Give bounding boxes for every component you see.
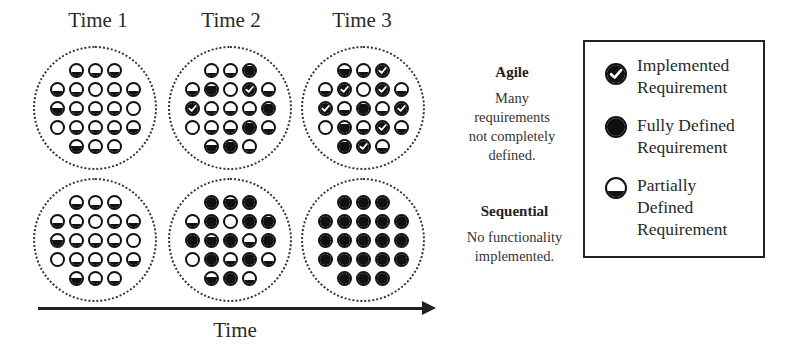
- partially-defined-requirement-icon: [204, 120, 219, 135]
- undefined-requirement-icon: [223, 214, 238, 229]
- sequential-label: Sequential No functionality implemented.: [452, 203, 577, 266]
- partially-defined-requirement-icon: [261, 82, 276, 97]
- fully-defined-requirement-icon: [223, 271, 238, 286]
- partially-defined-requirement-icon: [242, 271, 257, 286]
- partially-defined-requirement-icon: [261, 101, 276, 116]
- fully-defined-requirement-icon: [318, 233, 333, 248]
- undefined-requirement-icon: [88, 82, 103, 97]
- fully-defined-requirement-icon: [318, 252, 333, 267]
- fully-defined-requirement-icon: [242, 252, 257, 267]
- fully-defined-requirement-icon: [356, 252, 371, 267]
- partially-defined-requirement-icon: [69, 233, 84, 248]
- partially-defined-requirement-icon: [356, 101, 371, 116]
- fully-defined-requirement-icon: [337, 271, 352, 286]
- time-arrow-line: [38, 307, 424, 310]
- fully-defined-requirement-icon: [204, 252, 219, 267]
- fully-defined-requirement-icon: [375, 252, 390, 267]
- partially-defined-requirement-icon: [204, 139, 219, 154]
- legend-line: Requirement: [637, 218, 767, 240]
- partially-defined-requirement-icon: [242, 120, 257, 135]
- partially-defined-requirement-icon: [107, 101, 122, 116]
- partially-defined-requirement-icon: [107, 233, 122, 248]
- legend-line: Defined: [637, 196, 767, 218]
- agile-desc-line: not completely: [452, 127, 572, 146]
- implemented-requirement-icon: [356, 139, 371, 154]
- partially-defined-requirement-icon: [223, 252, 238, 267]
- partially-defined-requirement-icon: [223, 101, 238, 116]
- legend-text-partially-defined: Partially Defined Requirement: [637, 174, 767, 240]
- partially-defined-requirement-icon: [375, 101, 390, 116]
- partially-defined-requirement-icon: [50, 101, 65, 116]
- partially-defined-requirement-icon: [69, 82, 84, 97]
- fully-defined-requirement-icon: [185, 233, 200, 248]
- undefined-requirement-icon: [88, 214, 103, 229]
- partially-defined-requirement-icon: [107, 139, 122, 154]
- partially-defined-requirement-icon: [223, 120, 238, 135]
- partially-defined-requirement-icon: [126, 252, 141, 267]
- partially-defined-requirement-icon: [50, 233, 65, 248]
- agile-heading: Agile: [452, 64, 572, 81]
- partially-defined-requirement-icon: [107, 82, 122, 97]
- undefined-requirement-icon: [185, 120, 200, 135]
- partially-defined-requirement-icon: [107, 120, 122, 135]
- partially-defined-requirement-icon: [50, 214, 65, 229]
- partially-defined-requirement-icon: [69, 120, 84, 135]
- partially-defined-requirement-icon: [204, 82, 219, 97]
- fully-defined-requirement-icon: [223, 233, 238, 248]
- undefined-requirement-icon: [318, 120, 333, 135]
- implemented-requirement-icon: [375, 82, 390, 97]
- implemented-requirement-icon: [318, 101, 333, 116]
- partially-defined-requirement-icon: [185, 82, 200, 97]
- partially-defined-requirement-icon: [126, 82, 141, 97]
- column-title-time-1: Time 1: [33, 8, 163, 33]
- partially-defined-requirement-icon: [318, 82, 333, 97]
- partially-defined-requirement-icon: [223, 195, 238, 210]
- column-title-time-2: Time 2: [166, 8, 296, 33]
- partially-defined-requirement-icon: [107, 252, 122, 267]
- partially-defined-requirement-icon: [69, 195, 84, 210]
- partially-defined-requirement-icon: [204, 101, 219, 116]
- partially-defined-requirement-icon: [204, 233, 219, 248]
- partially-defined-requirement-icon: [88, 120, 103, 135]
- fully-defined-requirement-icon: [337, 233, 352, 248]
- fully-defined-requirement-icon: [375, 271, 390, 286]
- sequential-description: No functionality implemented.: [452, 228, 577, 266]
- fully-defined-requirement-icon: [394, 233, 409, 248]
- fully-defined-requirement-icon: [394, 214, 409, 229]
- implemented-requirement-icon: [185, 101, 200, 116]
- partially-defined-requirement-icon: [375, 139, 390, 154]
- implemented-requirement-icon: [242, 82, 257, 97]
- sequential-heading: Sequential: [452, 203, 577, 220]
- partially-defined-requirement-icon: [126, 214, 141, 229]
- check-circle-icon: [605, 63, 627, 85]
- undefined-requirement-icon: [126, 101, 141, 116]
- fully-defined-requirement-icon: [356, 271, 371, 286]
- fully-defined-requirement-icon: [356, 195, 371, 210]
- partially-defined-requirement-icon: [69, 139, 84, 154]
- fully-defined-requirement-icon: [337, 214, 352, 229]
- undefined-requirement-icon: [356, 82, 371, 97]
- time-axis-label: Time: [195, 318, 275, 343]
- legend-line: Partially: [637, 174, 767, 196]
- partially-defined-requirement-icon: [69, 63, 84, 78]
- fully-defined-requirement-icon: [261, 233, 276, 248]
- partially-defined-requirement-icon: [261, 252, 276, 267]
- partially-defined-requirement-icon: [223, 139, 238, 154]
- partially-defined-requirement-icon: [394, 82, 409, 97]
- fully-defined-requirement-icon: [204, 195, 219, 210]
- partially-defined-requirement-icon: [50, 82, 65, 97]
- fully-defined-requirement-icon: [394, 252, 409, 267]
- partially-defined-requirement-icon: [242, 63, 257, 78]
- partially-defined-requirement-icon: [223, 63, 238, 78]
- fully-defined-requirement-icon: [337, 252, 352, 267]
- partially-defined-requirement-icon: [107, 63, 122, 78]
- partially-defined-requirement-icon: [337, 139, 352, 154]
- partially-defined-requirement-icon: [204, 271, 219, 286]
- partially-defined-requirement-icon: [242, 139, 257, 154]
- filled-circle-icon: [605, 116, 627, 138]
- legend-text-implemented: Implemented Requirement: [637, 54, 767, 98]
- fully-defined-requirement-icon: [318, 214, 333, 229]
- partially-defined-requirement-icon: [88, 271, 103, 286]
- arrow-right-icon: [422, 301, 436, 315]
- fully-defined-requirement-icon: [337, 195, 352, 210]
